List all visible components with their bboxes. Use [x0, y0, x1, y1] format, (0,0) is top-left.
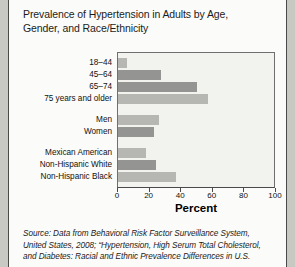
source-line-3: and Diabetes: Racial and Ethnic Prevalen… [23, 251, 285, 263]
category-label: 65–74 [89, 82, 112, 91]
category-axis-labels: 18–4445–6465–7475 years and olderMenWome… [23, 52, 116, 188]
bar [118, 115, 159, 125]
figure-container: Prevalence of Hypertension in Adults by … [8, 0, 287, 267]
source-line-2: United States, 2008; “Hypertension, High… [23, 240, 285, 252]
x-axis-tick-label: 0 [115, 191, 119, 200]
plot-area [117, 52, 275, 188]
bar [118, 160, 156, 170]
bar [118, 172, 176, 182]
bar-chart: 18–4445–6465–7475 years and olderMenWome… [23, 52, 275, 204]
category-label: Women [84, 127, 112, 136]
category-label: 45–64 [89, 70, 112, 79]
x-axis-tick-label: 40 [176, 191, 185, 200]
category-label: 75 years and older [44, 94, 112, 103]
category-label: 18–44 [89, 58, 112, 67]
x-axis-tick-label: 60 [207, 191, 216, 200]
category-label: Non-Hispanic Black [41, 172, 112, 181]
bar [118, 82, 197, 92]
bar [118, 127, 154, 137]
bar [118, 94, 208, 104]
category-label: Men [96, 115, 112, 124]
x-axis-title: Percent [117, 202, 275, 214]
x-axis-tick-label: 80 [239, 191, 248, 200]
figure-title-line-1: Prevalence of Hypertension in Adults by … [23, 7, 275, 21]
bar [118, 148, 146, 158]
category-label: Non-Hispanic White [40, 160, 112, 169]
bar [118, 58, 127, 68]
x-axis-tick-label: 20 [144, 191, 153, 200]
source-line-1: Source: Data from Behavioral Risk Factor… [23, 228, 285, 240]
figure-title: Prevalence of Hypertension in Adults by … [23, 7, 275, 35]
bar [118, 70, 161, 80]
x-axis-tick-label: 100 [268, 191, 281, 200]
figure-title-line-2: Gender, and Race/Ethnicity [23, 21, 275, 35]
source-note: Source: Data from Behavioral Risk Factor… [23, 228, 285, 263]
category-label: Mexican American [45, 148, 112, 157]
